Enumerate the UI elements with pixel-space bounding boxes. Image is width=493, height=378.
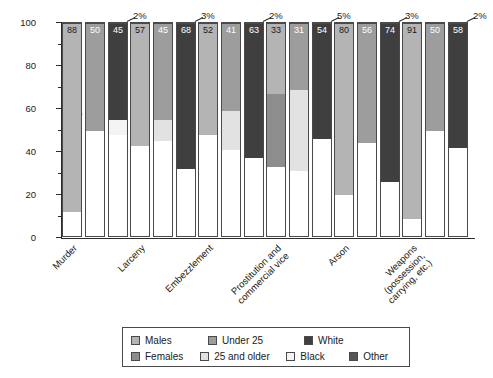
bar-value-label: 52 [199,25,217,35]
legend-row-top: MalesUnder 25White [131,332,403,348]
bar-value-label: 58 [449,25,467,35]
bar-value-label: 63 [245,25,263,35]
y-tick-label: 40 [25,147,36,156]
legend-swatch-icon [131,352,140,361]
legend-label: Other [363,351,388,362]
y-tick-minor [58,216,61,217]
bar-segment: 50 [426,23,444,131]
legend-item-black: Black [286,348,349,364]
bar-segment: 52 [199,23,217,135]
legend: MalesUnder 25White Females25 and olderBl… [122,327,410,367]
bar-segment: 41 [222,23,240,111]
plot-area: 1288505052452%4357554529683%485259413563… [62,22,474,237]
x-axis-line [61,238,475,239]
bar-value-label: 45 [109,25,127,35]
legend-item-other: Other [349,348,403,364]
bar-larceny-age: 5545 [153,22,173,237]
legend-swatch-icon [131,336,140,345]
other-percent-callout-larceny: 3% [201,11,215,21]
bar-murder-age: 5050 [85,22,105,237]
legend-swatch-icon [200,352,209,361]
bar-value-label: 50 [426,25,444,35]
bar-segment: 45 [109,23,127,120]
bar-group-arson: 2080445623743% [334,22,400,237]
y-axis-ticks [50,22,61,238]
legend-item-under-25: Under 25 [208,332,304,348]
y-tick-major [56,65,61,66]
bar-value-label: 88 [63,25,81,35]
bar-value-label: 33 [267,25,285,35]
y-tick-major [56,151,61,152]
bar-weapons-sex: 991 [402,22,422,237]
bar-segment: 88 [63,23,81,212]
legend-item-females: Females [131,348,200,364]
bar-weapons-age: 5050 [425,22,445,237]
legend-item-white: White [304,332,374,348]
legend-row-bottom: Females25 and olderBlackOther [131,348,403,364]
other-percent-callout-weapons: 2% [473,11,487,21]
bar-prostitution-sex: 6733 [266,22,286,237]
legend-swatch-icon [349,352,358,361]
bar-group-weapons: 991505040582% [402,22,468,237]
bar-segment: 57 [131,23,149,146]
other-percent-callout-prostitution: 5% [337,11,351,21]
bar-segment: 50 [86,23,104,131]
y-tick-major [56,194,61,195]
bar-segment: 91 [403,23,421,219]
bar-segment: 80 [335,23,353,195]
bar-group-larceny: 4357554529683% [130,22,196,237]
legend-label: Black [300,351,324,362]
bar-value-label: 56 [358,25,376,35]
bar-prostitution-race: 4154 [312,22,332,237]
legend-label: Males [145,335,172,346]
bar-larceny-sex: 4357 [130,22,150,237]
legend-swatch-icon [286,352,295,361]
y-tick-label: 100 [20,18,36,27]
bar-segment: 33 [267,23,285,94]
y-tick-label: 60 [25,104,36,113]
bar-value-label: 80 [335,25,353,35]
bar-weapons-race: 4058 [448,22,468,237]
stacked-bar-chart: 020406080100 Percentage 1288505052452%43… [0,0,493,378]
other-percent-callout-murder: 2% [133,11,147,21]
y-tick-major [56,22,61,23]
bar-group-murder: 1288505052452% [62,22,128,237]
legend-item-25-and-older: 25 and older [200,348,286,364]
bar-value-label: 91 [403,25,421,35]
bar-group-embezzlement: 4852594135632% [198,22,264,237]
bar-arson-race: 2374 [380,22,400,237]
bar-segment: 74 [381,23,399,182]
bar-arson-age: 4456 [357,22,377,237]
bar-value-label: 54 [313,25,331,35]
bar-segment: 58 [449,23,467,148]
y-axis-tick-labels: 020406080100 [0,22,50,238]
bar-segment: 45 [154,23,172,120]
bar-value-label: 74 [381,25,399,35]
bar-larceny-race: 2968 [176,22,196,237]
bar-value-label: 57 [131,25,149,35]
bar-value-label: 50 [86,25,104,35]
bar-murder-race: 5245 [108,22,128,237]
bar-segment: 31 [290,23,308,90]
bar-segment: 68 [177,23,195,169]
y-tick-minor [58,44,61,45]
legend-label: White [318,335,344,346]
y-tick-label: 0 [31,233,36,242]
other-percent-callout-embezzlement: 2% [269,11,283,21]
legend-swatch-icon [304,336,313,345]
bar-embezzlement-race: 3563 [244,22,264,237]
bar-embezzlement-sex: 4852 [198,22,218,237]
bar-segment: 56 [358,23,376,143]
bar-value-label: 31 [290,25,308,35]
y-tick-label: 80 [25,61,36,70]
other-percent-callout-arson: 3% [405,11,419,21]
bar-value-label: 41 [222,25,240,35]
bar-segment: 54 [313,23,331,139]
legend-swatch-icon [208,336,217,345]
bar-arson-sex: 2080 [334,22,354,237]
y-tick-label: 20 [25,190,36,199]
bar-murder-sex: 1288 [62,22,82,237]
bar-value-label: 45 [154,25,172,35]
bar-segment: 63 [245,23,263,158]
y-tick-minor [58,130,61,131]
